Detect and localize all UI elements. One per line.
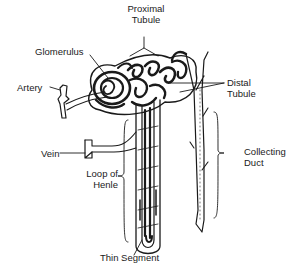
label-artery: Artery [17,82,42,93]
label-line: Duct [244,157,286,168]
collecting-duct-shape [172,52,208,232]
label-vein: Vein [41,148,60,159]
label-thin-segment: Thin Segment [100,252,159,263]
label-line: Henle [70,179,118,190]
glomerulus-and-proximal-tubule [89,55,197,115]
label-line: Collecting [244,146,286,157]
label-line: Loop of [70,168,118,179]
label-line: Distal [227,77,256,88]
nephron-diagram [0,0,303,276]
label-glomerulus: Glomerulus [35,46,84,57]
label-line: Tubule [227,88,256,99]
vein-shape [85,132,136,158]
label-line: Tubule [122,14,170,25]
label-leader-lines [50,37,224,255]
label-proximal-tubule: Proximal Tubule [122,3,170,25]
label-loop-of-henle: Loop of Henle [70,168,118,190]
label-collecting-duct: Collecting Duct [244,146,286,168]
loop-of-henle-shape [136,100,160,254]
artery-shape [58,85,107,118]
label-distal-tubule: Distal Tubule [227,77,256,99]
label-line: Proximal [122,3,170,14]
